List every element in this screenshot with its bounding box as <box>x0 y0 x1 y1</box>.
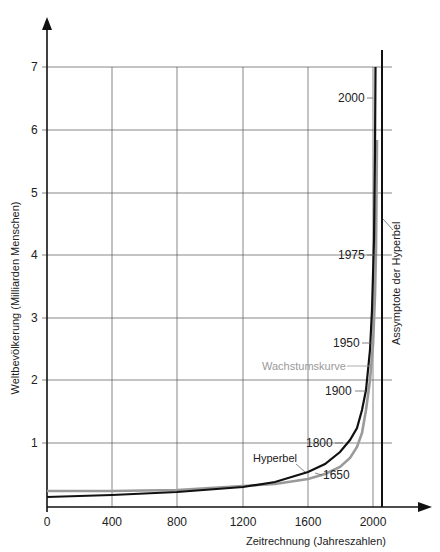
x-axis-label: Zeitrechnung (Jahreszahlen) <box>246 535 386 547</box>
x-tick: 1200 <box>230 515 257 529</box>
wachstumskurve-label: Wachstumskurve <box>262 360 346 372</box>
y-tick: 4 <box>31 248 38 262</box>
y-tick-labels: 7 6 5 4 3 2 1 <box>31 60 38 450</box>
y-tick: 1 <box>31 436 38 450</box>
annotation-1975: 1975 <box>338 248 365 262</box>
grid <box>42 67 392 507</box>
annotation-1900: 1900 <box>325 384 352 398</box>
hyperbel-label: Hyperbel <box>253 452 297 464</box>
annotation-2000: 2000 <box>338 91 365 105</box>
x-tick-labels: 0 400 800 1200 1600 2000 <box>44 515 387 529</box>
x-tick: 2000 <box>360 515 387 529</box>
population-chart: 7 6 5 4 3 2 1 0 400 800 1200 1600 2000 Z… <box>0 0 440 552</box>
annotations: 2000 1975 1950 Wachstumskurve 1900 1800 … <box>253 91 402 482</box>
x-tick: 400 <box>102 515 122 529</box>
x-tick: 0 <box>44 515 51 529</box>
x-axis-arrow-icon <box>418 502 432 512</box>
y-axis-arrow-icon <box>42 17 52 30</box>
y-tick: 3 <box>31 311 38 325</box>
y-tick: 6 <box>31 123 38 137</box>
hyperbel-line <box>47 67 376 497</box>
y-tick: 7 <box>31 60 38 74</box>
x-tick: 1600 <box>295 515 322 529</box>
annotation-1950: 1950 <box>333 336 360 350</box>
y-tick: 2 <box>31 373 38 387</box>
y-tick: 5 <box>31 186 38 200</box>
annotation-1800: 1800 <box>306 436 333 450</box>
x-tick: 800 <box>167 515 187 529</box>
y-axis-label: Weltbevölkerung (Milliarden Menschen) <box>9 202 21 395</box>
annotation-1650: 1650 <box>323 468 350 482</box>
asymptote-label: Assymptote der Hyperbel <box>390 222 402 346</box>
